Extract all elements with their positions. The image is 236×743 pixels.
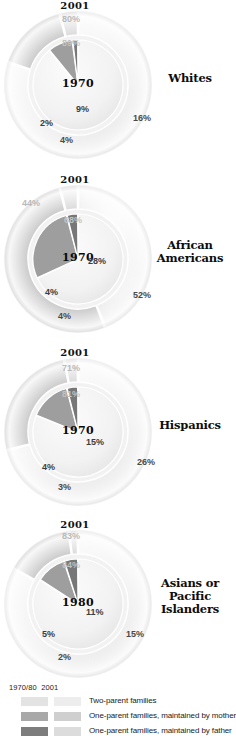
legend-header-new: 2001 bbox=[41, 683, 58, 692]
chart-1: 20011970African Americans44%52%4%68%28%4… bbox=[0, 174, 236, 347]
pct-label-outer-2: 2% bbox=[58, 652, 71, 662]
pct-label-outer-1: 52% bbox=[133, 290, 151, 300]
pct-label-inner-0: 89% bbox=[62, 38, 80, 48]
pct-label-inner-2: 2% bbox=[40, 118, 53, 128]
pct-label-outer-0: 44% bbox=[22, 198, 40, 208]
pct-label-inner-2: 4% bbox=[42, 462, 55, 472]
charts-container: 20011970Whites80%16%4%89%9%2%20011970Afr… bbox=[0, 0, 236, 676]
pct-label-outer-0: 83% bbox=[62, 531, 80, 541]
chart-legend: 1970/80 2001 Two-parent familiesOne-pare… bbox=[0, 683, 236, 743]
legend-swatch-old-one-parent-mother bbox=[21, 712, 48, 721]
pct-label-inner-1: 11% bbox=[86, 607, 104, 617]
pct-label-inner-0: 68% bbox=[64, 215, 82, 225]
pct-label-inner-1: 28% bbox=[88, 256, 106, 266]
inner-pie-year-label: 1970 bbox=[2, 424, 154, 437]
chart-3: 20011980Asians or Pacific Islanders83%15… bbox=[0, 519, 236, 676]
pct-label-outer-0: 80% bbox=[62, 14, 80, 24]
pct-label-inner-0: 81% bbox=[62, 389, 80, 399]
legend-label-one-parent-father: One-parent families, maintained by fathe… bbox=[89, 726, 232, 735]
pct-label-outer-2: 4% bbox=[60, 135, 73, 145]
legend-swatch-old-two-parent bbox=[21, 697, 48, 706]
legend-column-headers: 1970/80 2001 bbox=[9, 683, 58, 692]
chart-0: 20011970Whites80%16%4%89%9%2% bbox=[0, 0, 236, 174]
pct-label-outer-0: 71% bbox=[62, 363, 80, 373]
group-title: African Americans bbox=[145, 239, 235, 265]
inner-pie-year-label: 1970 bbox=[2, 251, 154, 264]
legend-swatch-old-one-parent-father bbox=[21, 727, 48, 736]
pct-label-inner-2: 5% bbox=[42, 629, 55, 639]
pct-label-outer-1: 16% bbox=[133, 113, 151, 123]
pct-label-outer-1: 15% bbox=[126, 629, 144, 639]
legend-swatch-new-one-parent-father bbox=[54, 727, 81, 736]
legend-label-one-parent-mother: One-parent families, maintained by mothe… bbox=[89, 711, 236, 720]
chart-2: 20011970Hispanics71%26%3%81%15%4% bbox=[0, 347, 236, 519]
pct-label-inner-2: 4% bbox=[45, 287, 58, 297]
inner-pie-year-label: 1980 bbox=[2, 596, 154, 609]
group-title: Hispanics bbox=[145, 419, 235, 432]
pct-label-outer-1: 26% bbox=[137, 457, 155, 467]
group-title: Whites bbox=[145, 72, 235, 85]
inner-pie-year-label: 1970 bbox=[2, 77, 154, 90]
legend-label-two-parent: Two-parent families bbox=[89, 696, 156, 705]
legend-header-old: 1970/80 bbox=[9, 683, 37, 692]
pct-label-outer-2: 4% bbox=[58, 311, 71, 321]
legend-swatch-new-one-parent-mother bbox=[54, 712, 81, 721]
pct-label-outer-2: 3% bbox=[58, 482, 71, 492]
legend-swatch-new-two-parent bbox=[54, 697, 81, 706]
group-title: Asians or Pacific Islanders bbox=[145, 577, 235, 616]
pct-label-inner-0: 84% bbox=[62, 560, 80, 570]
pct-label-inner-1: 9% bbox=[76, 104, 89, 114]
pct-label-inner-1: 15% bbox=[86, 437, 104, 447]
